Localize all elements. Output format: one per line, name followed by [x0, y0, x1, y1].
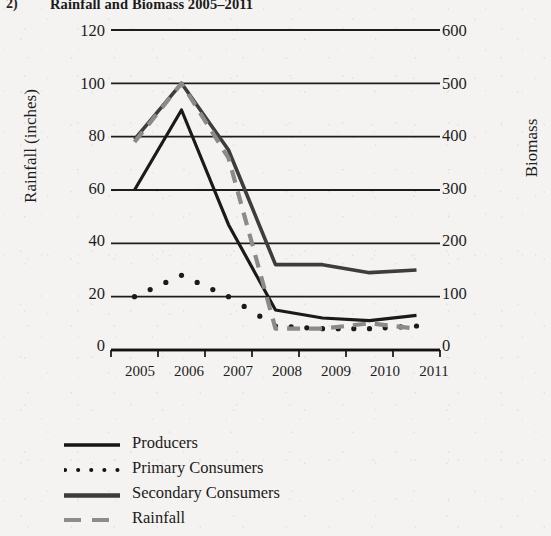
chart-title-row: 2) Rainfall and Biomass 2005–2011 — [0, 0, 551, 14]
legend-key-rainfall — [64, 508, 120, 528]
legend-label-producers: Producers — [132, 433, 198, 453]
legend-key-primary-consumers — [64, 458, 120, 478]
plot-area: Rainfall (inches) Biomass 120 100 80 60 … — [0, 18, 551, 378]
question-enumerator: 2) — [6, 0, 50, 12]
legend-item-primary-consumers: Primary Consumers — [64, 455, 484, 480]
gridlines — [111, 30, 440, 350]
legend-label-primary-consumers: Primary Consumers — [132, 458, 264, 478]
series-producers — [135, 110, 417, 321]
chart-legend: Producers Primary Consumers Secondary Co… — [64, 430, 484, 530]
series-layer — [132, 83, 419, 331]
legend-key-producers — [64, 433, 120, 453]
page-title: Rainfall and Biomass 2005–2011 — [50, 0, 253, 12]
legend-item-secondary-consumers: Secondary Consumers — [64, 480, 484, 505]
legend-key-secondary-consumers — [64, 483, 120, 503]
legend-item-producers: Producers — [64, 430, 484, 455]
chart-page: 2) Rainfall and Biomass 2005–2011 Rainfa… — [0, 0, 551, 536]
legend-label-rainfall: Rainfall — [132, 508, 185, 528]
chart-canvas — [0, 18, 551, 378]
series-secondary-consumers — [135, 83, 417, 272]
legend-item-rainfall: Rainfall — [64, 505, 484, 530]
legend-label-secondary-consumers: Secondary Consumers — [132, 483, 280, 503]
